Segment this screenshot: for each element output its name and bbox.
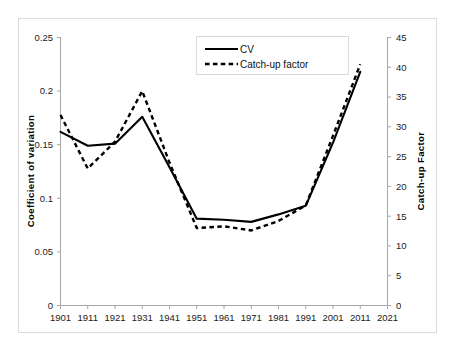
left-axis-tick-labels: 0 0.05 0.1 0.15 0.2 0.25 [35,32,54,311]
x-tick-label: 1901 [50,312,71,323]
left-axis-title: Coefficient of variation [25,115,36,228]
x-tick-label: 1981 [268,312,289,323]
x-tick-label: 1991 [295,312,316,323]
bottom-axis-ticks [61,306,388,310]
left-tick-label: 0.05 [35,246,54,257]
left-tick-label: 0.25 [35,32,54,43]
right-tick-label: 35 [396,91,407,102]
left-tick-label: 0.15 [35,139,54,150]
right-tick-label: 45 [396,32,407,43]
right-tick-label: 20 [396,181,407,192]
right-tick-label: 0 [396,300,401,311]
x-tick-label: 1911 [78,312,98,323]
x-axis-tick-labels: 1901 1911 1921 1931 1941 1951 1961 1971 … [50,312,398,323]
x-tick-label: 1921 [104,312,125,323]
right-tick-label: 40 [396,62,407,73]
legend-label-catchup-factor: Catch-up factor [240,59,309,70]
right-tick-label: 15 [396,211,407,222]
x-tick-label: 1961 [213,312,234,323]
x-tick-label: 1931 [132,312,153,323]
x-tick-label: 2011 [350,312,370,323]
series-line-cv [61,72,361,222]
left-axis-ticks [57,38,61,306]
right-tick-label: 30 [396,121,407,132]
x-tick-label: 2021 [377,312,398,323]
chart-canvas: 0 0.05 0.1 0.15 0.2 0.25 0 5 10 15 20 25… [0,0,454,351]
chart-figure: 0 0.05 0.1 0.15 0.2 0.25 0 5 10 15 20 25… [0,0,454,351]
right-axis-title: Catch-up Factor [415,132,426,211]
x-tick-label: 1971 [241,312,262,323]
right-tick-label: 10 [396,240,407,251]
series-line-catchup-factor [61,64,361,230]
x-tick-label: 1941 [159,312,180,323]
right-axis-tick-labels: 0 5 10 15 20 25 30 35 40 45 [396,32,407,311]
chart-legend: CV Catch-up factor [197,37,349,75]
left-tick-label: 0.2 [40,85,53,96]
legend-label-cv: CV [240,44,254,55]
left-tick-label: 0 [48,300,53,311]
right-tick-label: 5 [396,270,401,281]
x-tick-label: 1951 [186,312,207,323]
left-tick-label: 0.1 [40,193,53,204]
right-axis-ticks [388,38,392,306]
x-tick-label: 2001 [322,312,343,323]
right-tick-label: 25 [396,151,407,162]
